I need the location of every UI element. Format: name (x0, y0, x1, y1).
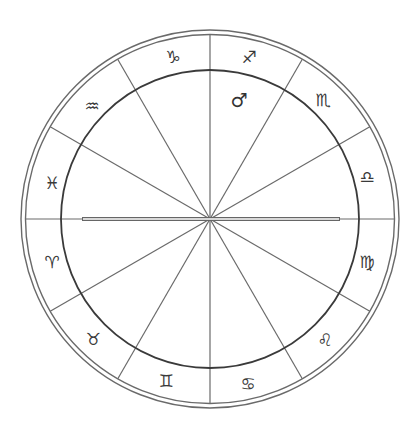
zodiac-virgo-icon: ♍︎ (359, 252, 374, 272)
house-cusp-line (210, 219, 370, 311)
house-cusp-line (50, 127, 210, 219)
zodiac-pisces-icon: ♓︎ (44, 173, 59, 193)
house-cusp-line (50, 219, 210, 311)
zodiac-leo-icon: ♌︎ (317, 330, 332, 350)
zodiac-cancer-icon: ♋︎ (240, 374, 255, 394)
house-cusp-line (210, 127, 370, 219)
house-cusp-line (118, 59, 210, 219)
zodiac-capricorn-icon: ♑︎ (165, 47, 180, 67)
zodiac-gemini-icon: ♊︎ (158, 371, 173, 391)
zodiac-sagittarius-icon: ♐︎ (241, 47, 256, 67)
zodiac-aquarius-icon: ♒︎ (84, 96, 99, 116)
planet-glyphs: ♂ (230, 89, 247, 111)
planet-mars-icon: ♂ (230, 89, 247, 111)
zodiac-aries-icon: ♈︎ (44, 252, 59, 272)
astrology-chart-wheel: ♑︎♐︎♏︎♎︎♍︎♌︎♋︎♊︎♉︎♈︎♓︎♒︎ ♂ (0, 0, 414, 428)
zodiac-scorpio-icon: ♏︎ (315, 90, 330, 110)
house-cusp-line (210, 219, 302, 379)
zodiac-libra-icon: ♎︎ (359, 167, 374, 187)
house-cusp-line (210, 59, 302, 219)
zodiac-taurus-icon: ♉︎ (85, 329, 100, 349)
house-cusp-line (118, 219, 210, 379)
